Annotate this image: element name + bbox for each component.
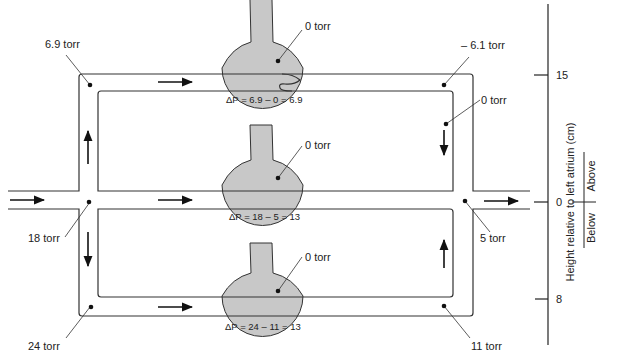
pressure-bottom-left: 24 torr bbox=[28, 340, 60, 352]
alveolus-top bbox=[222, 0, 303, 109]
pressure-top-right-lower: 0 torr bbox=[481, 94, 507, 106]
axis-label: Height relative to left atrium (cm) bbox=[564, 102, 576, 302]
alveolus-middle-pressure: 0 torr bbox=[305, 139, 331, 151]
axis-above-label: Above bbox=[585, 156, 597, 196]
delta-p-top: ΔP = 6.9 – 0 = 6.9 bbox=[226, 94, 302, 105]
axis-tick-0: 0 bbox=[556, 196, 562, 208]
alveolus-top-pressure: 0 torr bbox=[305, 20, 331, 32]
pressure-middle-right: 5 torr bbox=[480, 232, 506, 244]
delta-p-middle: ΔP = 18 – 5 = 13 bbox=[229, 211, 300, 222]
pressure-bottom-right: 11 torr bbox=[471, 340, 502, 352]
lung-zone-diagram bbox=[0, 0, 617, 362]
pressure-top-right: – 6.1 torr bbox=[461, 39, 505, 51]
pressure-middle-left: 18 torr bbox=[28, 232, 60, 244]
axis-below-label: Below bbox=[585, 208, 597, 248]
pressure-top-left: 6.9 torr bbox=[45, 38, 80, 50]
alveolus-bottom-pressure: 0 torr bbox=[305, 251, 331, 263]
axis-tick-15: 15 bbox=[556, 69, 568, 81]
delta-p-bottom: ΔP = 24 – 11 = 13 bbox=[225, 321, 301, 332]
axis-tick-8: 8 bbox=[556, 293, 562, 305]
